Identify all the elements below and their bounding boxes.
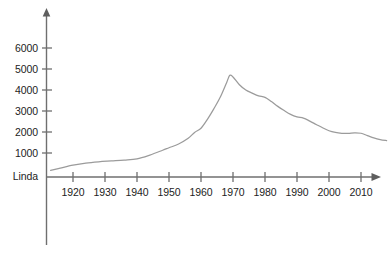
data-series-line (51, 75, 387, 170)
x-axis-label-2000: 2000 (318, 187, 341, 198)
y-axis-label-1000: 1000 (8, 148, 38, 159)
x-axis-label-1940: 1940 (126, 187, 149, 198)
y-axis-label-6000: 6000 (8, 43, 38, 54)
y-axis-label-5000: 5000 (8, 64, 38, 75)
x-axis-label-1980: 1980 (254, 187, 277, 198)
x-axis-label-1960: 1960 (190, 187, 213, 198)
x-axis-label-1990: 1990 (286, 187, 309, 198)
x-axis-label-1920: 1920 (62, 187, 85, 198)
x-axis-label-2010: 2010 (350, 187, 373, 198)
y-axis-arrow-icon (43, 8, 51, 17)
chart-canvas (0, 0, 391, 259)
y-axis-label-3000: 3000 (8, 106, 38, 117)
x-axis-label-1970: 1970 (222, 187, 245, 198)
x-axis-label-1930: 1930 (94, 187, 117, 198)
y-axis-label-4000: 4000 (8, 85, 38, 96)
x-axis-arrow-icon (372, 173, 382, 181)
y-axis-label-2000: 2000 (8, 127, 38, 138)
series-name-label: Linda (2, 171, 38, 182)
line-chart: 6000 5000 4000 3000 2000 1000 Linda 1920… (0, 0, 391, 259)
x-axis-label-1950: 1950 (158, 187, 181, 198)
